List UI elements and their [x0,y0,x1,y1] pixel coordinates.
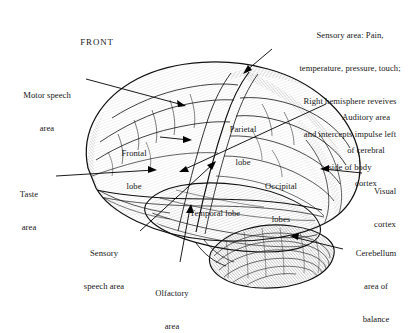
label-motor-speech-area: Motor speech area [23,68,71,156]
label-taste-area: Taste area [20,167,38,255]
label-occipital-lobes: Occipital lobes [265,159,297,247]
label-sensory-speech-area: Sensory speech area [84,226,124,314]
label-temporal-lobe: Temporal lobe [190,186,240,241]
orientation-label-front: FRONT [80,37,113,47]
label-parietal-lobe: Parietal lobe [230,102,257,190]
label-frontal-lobe: Frontal lobe [121,126,146,214]
label-olfactory-area: Olfactory area [155,266,188,333]
label-cerebellum: Cerebellum area of balance [356,226,397,333]
